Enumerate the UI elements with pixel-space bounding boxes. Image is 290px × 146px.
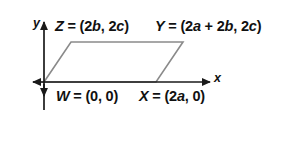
vertex-label-w-name: W: [56, 88, 70, 104]
vertex-label-x-close: , 0): [185, 88, 205, 104]
vertex-label-y-var-a: a: [193, 18, 201, 34]
vertex-label-x: X = (2a, 0): [139, 89, 205, 104]
vertex-label-x-eq: = (2: [148, 88, 176, 104]
geometry-figure: y x Z = (2b, 2c) Y = (2a + 2b, 2c) W = (…: [0, 0, 290, 146]
vertex-label-z-close: ): [124, 18, 129, 34]
vertex-label-y-mid: , 2: [233, 18, 249, 34]
vertex-label-w-eq: = (0, 0): [70, 88, 119, 104]
vertex-label-x-var-a: a: [177, 88, 185, 104]
vertex-label-z-eq: = (2: [64, 18, 92, 34]
y-axis-label: y: [33, 17, 40, 30]
vertex-label-z: Z = (2b, 2c): [55, 19, 129, 34]
x-axis-label: x: [214, 72, 221, 85]
vertex-label-y-eq: = (2: [164, 18, 192, 34]
vertex-label-z-var-c: c: [116, 18, 124, 34]
parallelogram-shape: [44, 42, 183, 82]
vertex-label-z-mid: , 2: [101, 18, 117, 34]
vertex-label-y-var-c: c: [249, 18, 257, 34]
vertex-label-w: W = (0, 0): [56, 89, 118, 104]
vertex-label-z-var-b: b: [92, 18, 101, 34]
vertex-label-y-close: ): [257, 18, 262, 34]
vertex-label-y-var-b: b: [225, 18, 234, 34]
vertex-label-z-name: Z: [55, 18, 64, 34]
vertex-label-y-plus: + 2: [201, 18, 225, 34]
vertex-label-y: Y = (2a + 2b, 2c): [155, 19, 261, 34]
